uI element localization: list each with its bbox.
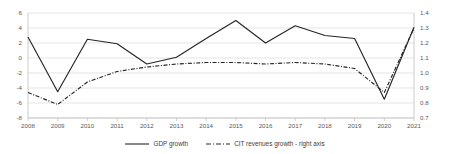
y-axis-right-tick-label: 1.2 — [420, 40, 438, 46]
y-axis-left-tick-label: -8 — [6, 115, 22, 121]
chart-container: 6420-2-4-6-8 1.41.31.21.11.00.90.80.7 20… — [0, 0, 450, 154]
y-axis-left-tick-label: -2 — [6, 70, 22, 76]
x-axis-tick-label: 2020 — [371, 123, 397, 129]
legend-item-gdp-growth: GDP growth — [125, 140, 188, 148]
y-axis-left-tick-label: -4 — [6, 85, 22, 91]
y-axis-left-tick-label: -6 — [6, 100, 22, 106]
x-axis-tick-label: 2008 — [15, 123, 41, 129]
y-axis-right-tick-label: 1.4 — [420, 10, 438, 16]
y-axis-right-tick-label: 0.8 — [420, 100, 438, 106]
x-axis-tick-label: 2015 — [223, 123, 249, 129]
x-axis-tick-label: 2021 — [401, 123, 427, 129]
x-axis-tick-label: 2010 — [74, 123, 100, 129]
y-axis-right-tick-label: 1.1 — [420, 55, 438, 61]
y-axis-left-tick-label: 0 — [6, 55, 22, 61]
x-axis-tick-label: 2016 — [253, 123, 279, 129]
legend-label-gdp-growth: GDP growth — [153, 141, 188, 147]
series-line-gdp-growth — [28, 21, 414, 100]
y-axis-right-tick-label: 1.0 — [420, 70, 438, 76]
chart-legend: GDP growth CIT revenues growth - right a… — [0, 134, 450, 154]
y-axis-left-tick-label: 4 — [6, 25, 22, 31]
x-axis-tick-label: 2014 — [193, 123, 219, 129]
x-axis-tick-label: 2018 — [312, 123, 338, 129]
chart-plot-area — [0, 0, 450, 154]
gridlines — [28, 13, 414, 118]
legend-item-cit-revenues-growth: CIT revenues growth - right axis — [206, 140, 324, 148]
series-line-cit-revenues-growth — [28, 28, 414, 105]
y-axis-right-tick-label: 0.9 — [420, 85, 438, 91]
y-axis-left-tick-label: 2 — [6, 40, 22, 46]
data-series-group — [28, 21, 414, 105]
solid-line-swatch-icon — [125, 140, 149, 148]
dash-dot-line-swatch-icon — [206, 140, 230, 148]
x-axis-tick-label: 2017 — [282, 123, 308, 129]
y-axis-right-tick-label: 1.3 — [420, 25, 438, 31]
x-axis-tick-label: 2013 — [163, 123, 189, 129]
legend-label-cit-revenues-growth: CIT revenues growth - right axis — [234, 141, 324, 147]
y-axis-right-tick-label: 0.7 — [420, 115, 438, 121]
x-axis-tick-label: 2011 — [104, 123, 130, 129]
y-axis-left-tick-label: 6 — [6, 10, 22, 16]
x-axis-tick-label: 2009 — [45, 123, 71, 129]
x-axis-tick-label: 2012 — [134, 123, 160, 129]
x-axis-tick-label: 2019 — [342, 123, 368, 129]
